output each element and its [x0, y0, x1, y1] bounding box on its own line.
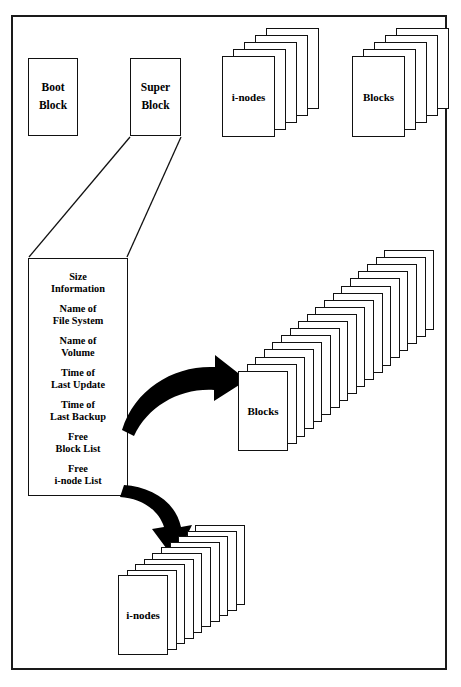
inodes-stack-top: i-nodes [222, 28, 322, 138]
stack-label: Blocks [247, 405, 278, 417]
super-block-field-line2: File System [53, 315, 104, 328]
super-block-field-line2: Information [51, 283, 105, 296]
super-block-field-line1: Time of [51, 367, 105, 380]
boot-block-box: Boot Block [28, 58, 78, 136]
super-block-field: SizeInformation [51, 271, 105, 296]
blocks-stack-top: Blocks [352, 28, 452, 138]
super-block-box: Super Block [130, 58, 181, 136]
super-block-label-line2: Block [141, 97, 169, 115]
super-block-field-line2: Last Update [51, 379, 105, 392]
super-block-field: Name ofVolume [60, 335, 97, 360]
super-block-field-line1: Name of [60, 335, 97, 348]
super-block-field: Time ofLast Update [51, 367, 105, 392]
boot-block-label-line2: Block [39, 97, 67, 115]
stack-label: i-nodes [126, 609, 160, 621]
super-block-detail-panel: SizeInformationName ofFile SystemName of… [28, 258, 128, 496]
stack-front-card: Blocks [352, 56, 405, 137]
super-block-field-line1: Free [56, 431, 101, 444]
super-block-field: Name ofFile System [53, 303, 104, 328]
stack-label: i-nodes [232, 91, 266, 103]
stack-label: Blocks [363, 91, 394, 103]
super-block-field-line1: Time of [50, 399, 106, 412]
blocks-stack-data: Blocks [238, 250, 453, 465]
boot-block-label-line1: Boot [42, 79, 65, 97]
super-block-field: Freei-node List [54, 463, 101, 488]
super-block-field-line2: Volume [60, 347, 97, 360]
super-block-field-line2: i-node List [54, 475, 101, 488]
stack-front-card: i-nodes [118, 575, 168, 655]
diagram-canvas: Boot Block Super Block i-nodes Blocks Si… [0, 0, 461, 687]
super-block-field: FreeBlock List [56, 431, 101, 456]
stack-front-card: Blocks [238, 371, 288, 451]
inodes-stack-data: i-nodes [118, 525, 298, 665]
super-block-field: Time ofLast Backup [50, 399, 106, 424]
super-block-label-line1: Super [141, 79, 170, 97]
super-block-field-line2: Last Backup [50, 411, 106, 424]
super-block-field-line1: Name of [53, 303, 104, 316]
stack-front-card: i-nodes [222, 56, 275, 137]
super-block-field-line2: Block List [56, 443, 101, 456]
super-block-field-line1: Size [51, 271, 105, 284]
super-block-field-line1: Free [54, 463, 101, 476]
